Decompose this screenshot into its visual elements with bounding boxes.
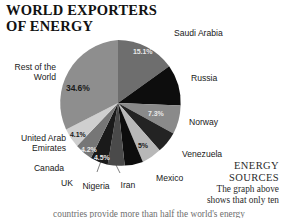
slice-percent-rest-of-the-world: 34.6% xyxy=(66,83,90,93)
pie-label-nigeria: Nigeria xyxy=(79,181,113,191)
article-tail-line: countries provide more than half the wor… xyxy=(20,209,278,218)
pie-label-uk: UK xyxy=(57,178,77,188)
slice-percent-mexico: 5% xyxy=(138,142,148,149)
figure-root: WORLD EXPORTERS OF ENERGY xyxy=(0,0,282,218)
slice-percent-canada: 4.2% xyxy=(81,146,97,153)
article-heading: ENERGY SOURCES xyxy=(201,160,279,183)
pie-label-rest-of-the-world: Rest of the World xyxy=(0,62,56,82)
pie-label-russia: Russia xyxy=(191,73,217,83)
slice-percent-uk: 4.5% xyxy=(94,154,110,161)
pie-label-mexico: Mexico xyxy=(156,173,183,183)
leader-line-nigeria xyxy=(116,165,120,173)
pie-label-canada: Canada xyxy=(10,163,64,173)
pie-label-united-arab-emirates: United Arab Emirates xyxy=(0,133,66,153)
pie-label-norway: Norway xyxy=(189,117,218,127)
article-body: The graph above shows that only ten xyxy=(201,184,279,205)
slice-percent-saudi-arabia: 15.1% xyxy=(133,48,152,55)
leader-line-uk xyxy=(97,161,101,172)
pie-slices xyxy=(60,40,180,166)
slice-percent-united-arab-emirates: 4.1% xyxy=(70,131,86,138)
slice-percent-norway: 7.3% xyxy=(148,110,164,117)
pie-label-iran: Iran xyxy=(115,180,141,190)
article-block: ENERGY SOURCES The graph above shows tha… xyxy=(201,160,279,205)
pie-label-saudi-arabia: Saudi Arabia xyxy=(174,28,223,38)
pie-label-venezuela: Venezuela xyxy=(182,149,222,159)
